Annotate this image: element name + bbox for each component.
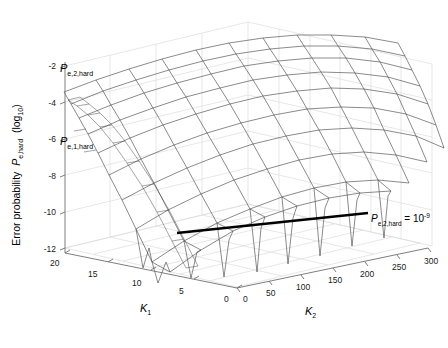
z-tick-label-3: -8 xyxy=(48,171,56,181)
k1-tick-label-4: 0 xyxy=(224,294,229,304)
k1-tick-label-0: 20 xyxy=(50,258,60,268)
k1-tick-label-1: 15 xyxy=(88,269,98,279)
k2-tick-label-2: 100 xyxy=(296,282,310,292)
k1-tick-label-2: 10 xyxy=(132,278,142,288)
contour-annotation: Pe,2,hard = 10-9 xyxy=(371,212,430,227)
z-axis-label: Error probability Pe,hard (log10) xyxy=(10,104,24,246)
figure-3d-surface-plot: -2 -4 -6 -8 -10 -12 20 15 10 5 0 0 50 10… xyxy=(0,0,448,348)
z-tick-label-1: -4 xyxy=(48,98,56,108)
k1-axis-label: K1 xyxy=(140,302,151,316)
plot-canvas: -2 -4 -6 -8 -10 -12 20 15 10 5 0 0 50 10… xyxy=(0,0,448,348)
k2-axis-label: K2 xyxy=(305,305,316,319)
k2-tick-label-1: 50 xyxy=(266,288,276,298)
surface-mesh-upper xyxy=(64,35,444,283)
k2-tick-label-4: 200 xyxy=(360,269,374,279)
z-tick-label-0: -2 xyxy=(48,61,56,71)
z-axis-ticks xyxy=(60,66,65,250)
k2-tick-label-3: 150 xyxy=(328,275,342,285)
z-tick-label-4: -10 xyxy=(44,207,57,217)
z-tick-label-2: -6 xyxy=(48,134,56,144)
k1-tick-label-3: 5 xyxy=(179,286,184,296)
z-tick-label-5: -12 xyxy=(44,244,57,254)
k2-tick-label-5: 250 xyxy=(392,262,406,272)
k2-tick-label-0: 0 xyxy=(243,294,248,304)
k2-tick-label-6: 300 xyxy=(424,256,438,266)
